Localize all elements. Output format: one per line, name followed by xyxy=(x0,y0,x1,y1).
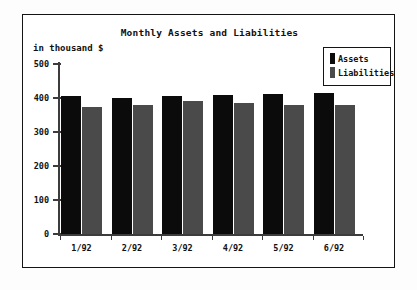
y-tick-100 xyxy=(53,199,61,201)
x-tick-1-92 xyxy=(111,236,112,240)
y-tick-label-500: 500 xyxy=(23,59,49,69)
bar-assets-5-92 xyxy=(263,94,283,234)
bar-assets-2-92 xyxy=(112,98,132,234)
legend-item-liabilities: Liabilities xyxy=(330,67,394,78)
chart-legend: Assets Liabilities xyxy=(323,47,391,86)
x-tick-label-1-92: 1/92 xyxy=(71,243,91,253)
bar-liabilities-1-92 xyxy=(82,107,102,234)
x-tick-2-92 xyxy=(161,236,162,240)
x-tick-label-4-92: 4/92 xyxy=(223,243,243,253)
bar-liabilities-4-92 xyxy=(234,103,254,234)
y-tick-300 xyxy=(53,131,61,133)
bar-assets-6-92 xyxy=(314,93,334,234)
bar-assets-1-92 xyxy=(61,96,81,234)
x-tick-3-92 xyxy=(212,236,213,240)
y-tick-0 xyxy=(53,233,61,235)
y-tick-label-100: 100 xyxy=(23,195,49,205)
y-axis-line xyxy=(58,62,60,236)
chart-frame: Monthly Assets and Liabilities in thousa… xyxy=(22,14,395,268)
y-tick-label-0: 0 xyxy=(23,229,49,239)
x-tick-origin xyxy=(60,236,61,240)
bar-assets-4-92 xyxy=(213,95,233,234)
legend-item-assets: Assets xyxy=(330,53,369,64)
bar-assets-3-92 xyxy=(162,96,182,234)
x-axis-line xyxy=(58,234,363,236)
x-tick-label-2-92: 2/92 xyxy=(122,243,142,253)
y-tick-200 xyxy=(53,165,61,167)
y-tick-400 xyxy=(53,97,61,99)
bar-liabilities-3-92 xyxy=(183,101,203,234)
bar-liabilities-2-92 xyxy=(133,105,153,234)
legend-swatch-assets-icon xyxy=(330,53,335,64)
bar-liabilities-6-92 xyxy=(335,105,355,234)
legend-label-assets: Assets xyxy=(338,54,369,64)
bar-liabilities-5-92 xyxy=(284,105,304,234)
legend-swatch-liabilities-icon xyxy=(330,67,335,78)
chart-screenshot: Monthly Assets and Liabilities in thousa… xyxy=(0,0,417,290)
x-tick-label-6-92: 6/92 xyxy=(324,243,344,253)
x-tick-label-5-92: 5/92 xyxy=(273,243,293,253)
y-tick-label-300: 300 xyxy=(23,127,49,137)
x-tick-5-92 xyxy=(313,236,314,240)
x-tick-6-92 xyxy=(363,236,364,240)
x-tick-4-92 xyxy=(262,236,263,240)
legend-label-liabilities: Liabilities xyxy=(338,68,394,78)
y-tick-500 xyxy=(53,63,61,65)
y-tick-label-400: 400 xyxy=(23,93,49,103)
x-tick-label-3-92: 3/92 xyxy=(172,243,192,253)
y-tick-label-200: 200 xyxy=(23,161,49,171)
